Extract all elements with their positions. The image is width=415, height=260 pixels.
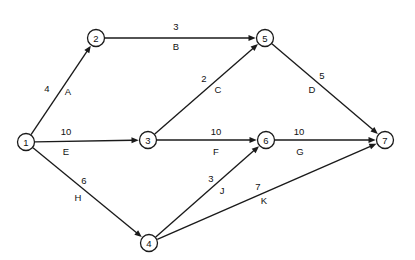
network-diagram: 1234567 4A3B2C5D10E10F10G6H3J7K bbox=[0, 0, 415, 260]
edge-name-B: B bbox=[173, 41, 179, 52]
edge-name-J: J bbox=[220, 185, 225, 196]
edge-weight-B: 3 bbox=[173, 21, 178, 32]
edge-weight-C: 2 bbox=[201, 73, 206, 84]
node-label-5: 5 bbox=[262, 33, 267, 44]
edge-line-D bbox=[272, 44, 373, 130]
edge-labels-layer: 4A3B2C5D10E10F10G6H3J7K bbox=[44, 21, 324, 206]
network-graph-canvas: 1234567 4A3B2C5D10E10F10G6H3J7K bbox=[0, 0, 415, 260]
node-2[interactable]: 2 bbox=[88, 30, 105, 47]
node-6[interactable]: 6 bbox=[258, 132, 275, 149]
node-label-4: 4 bbox=[146, 238, 151, 249]
node-4[interactable]: 4 bbox=[141, 235, 158, 252]
edge-weight-G: 10 bbox=[294, 126, 305, 137]
node-5[interactable]: 5 bbox=[257, 30, 274, 47]
edge-weight-F: 10 bbox=[211, 126, 222, 137]
edge-weight-H: 6 bbox=[81, 175, 86, 186]
edges-layer bbox=[31, 38, 373, 239]
edge-line-C bbox=[155, 48, 254, 134]
edge-name-A: A bbox=[65, 86, 72, 97]
edge-line-J bbox=[156, 150, 255, 237]
edge-weight-D: 5 bbox=[319, 70, 324, 81]
edge-name-C: C bbox=[215, 84, 222, 95]
edge-weight-J: 3 bbox=[208, 173, 213, 184]
arrowhead-E bbox=[131, 137, 138, 143]
arrowhead-G bbox=[369, 137, 376, 143]
edge-name-G: G bbox=[296, 146, 303, 157]
node-1[interactable]: 1 bbox=[18, 134, 35, 151]
edge-name-H: H bbox=[75, 192, 82, 203]
edge-name-D: D bbox=[309, 84, 316, 95]
edge-line-K bbox=[157, 146, 371, 239]
node-3[interactable]: 3 bbox=[140, 132, 157, 149]
node-label-1: 1 bbox=[23, 137, 28, 148]
arrowhead-F bbox=[250, 137, 257, 143]
edge-name-F: F bbox=[213, 146, 219, 157]
node-label-7: 7 bbox=[382, 135, 387, 146]
edge-line-E bbox=[35, 140, 133, 142]
node-label-3: 3 bbox=[145, 135, 150, 146]
edge-name-E: E bbox=[63, 146, 69, 157]
arrowhead-B bbox=[249, 35, 256, 41]
node-label-2: 2 bbox=[93, 33, 98, 44]
edge-line-A bbox=[31, 51, 87, 135]
arrowhead-A bbox=[84, 46, 91, 54]
edge-weight-A: 4 bbox=[44, 83, 49, 94]
edge-line-H bbox=[33, 148, 137, 234]
node-label-6: 6 bbox=[263, 135, 268, 146]
edge-weight-E: 10 bbox=[61, 126, 72, 137]
edge-weight-K: 7 bbox=[255, 181, 260, 192]
edge-name-K: K bbox=[261, 195, 268, 206]
node-7[interactable]: 7 bbox=[377, 132, 394, 149]
